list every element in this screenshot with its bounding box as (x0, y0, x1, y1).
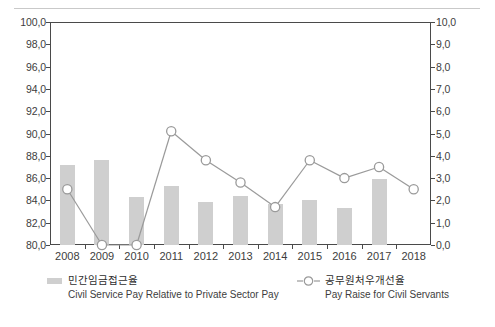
legend-marker-line (297, 275, 321, 287)
data-point-marker (97, 240, 106, 249)
data-point-marker (132, 240, 141, 249)
legend-label-line-ko: 공무원처우개선율 (325, 272, 405, 287)
line-segment (137, 131, 172, 245)
data-point-marker (236, 178, 245, 187)
data-point-marker (201, 156, 210, 165)
legend-label-bar-en: Civil Service Pay Relative to Private Se… (68, 289, 279, 300)
legend-swatch-bar (47, 278, 62, 284)
data-point-marker (167, 127, 176, 136)
data-point-marker (63, 185, 72, 194)
data-point-marker (374, 162, 383, 171)
line-segment (241, 183, 276, 208)
legend-label-bar-ko: 민간임금접근율 (68, 272, 138, 287)
line-segment (275, 160, 310, 207)
legend-label-line-en: Pay Raise for Civil Servants (325, 289, 449, 300)
line-segment (171, 131, 206, 160)
line-segment (206, 160, 241, 182)
line-segment (379, 167, 414, 189)
data-point-marker (409, 185, 418, 194)
data-point-marker (340, 174, 349, 183)
data-point-marker (271, 202, 280, 211)
line-segment (310, 160, 345, 178)
chart-figure: 80,082,084,086,088,090,092,094,096,098,0… (0, 0, 495, 327)
line-segment (67, 189, 102, 245)
data-point-marker (305, 156, 314, 165)
line-segment (344, 167, 379, 178)
